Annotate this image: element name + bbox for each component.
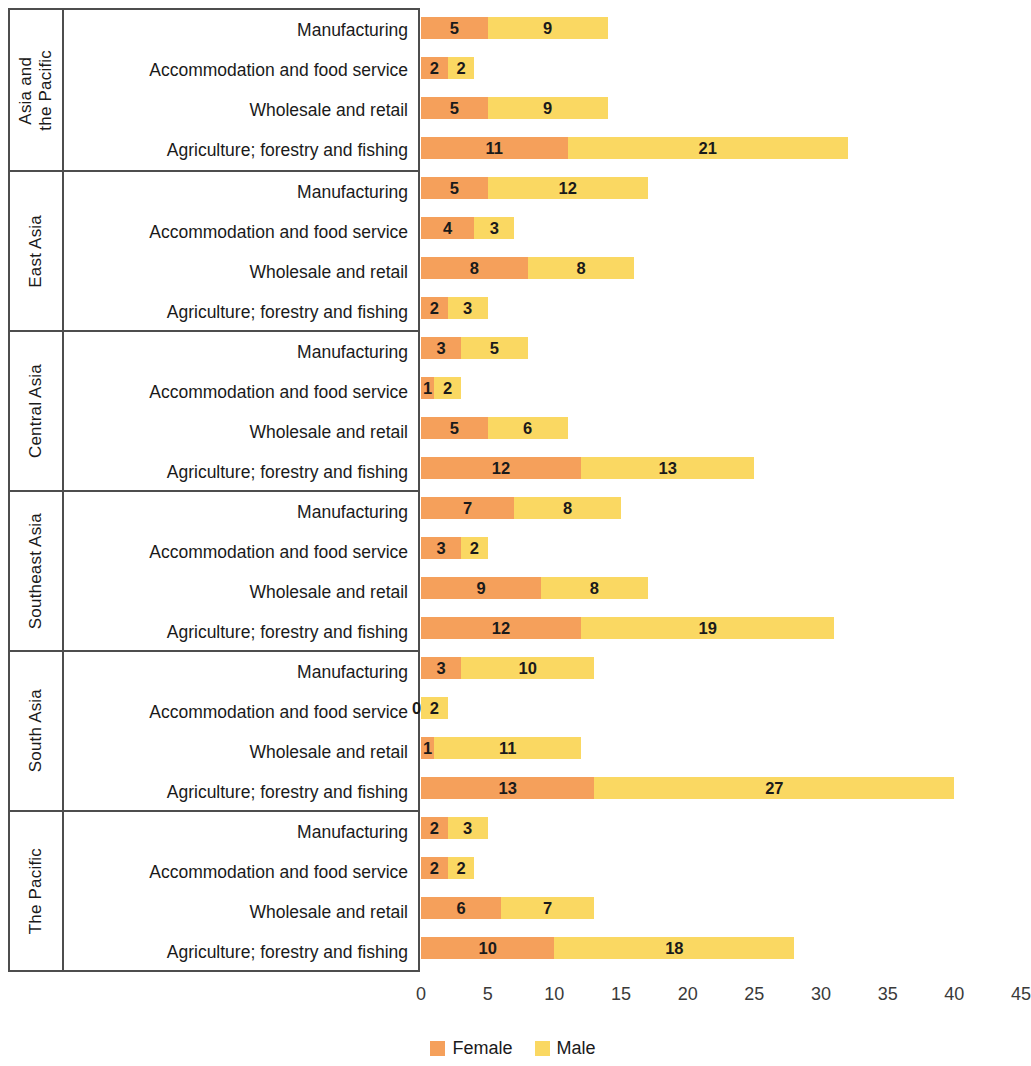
- legend-item-female[interactable]: Female: [430, 1038, 512, 1059]
- region-name: South Asia: [26, 689, 46, 772]
- legend-swatch-icon: [430, 1041, 445, 1056]
- bar-segment-female[interactable]: 2: [421, 297, 448, 319]
- bar-segment-female[interactable]: 3: [421, 657, 461, 679]
- bar-segment-male[interactable]: 2: [448, 857, 475, 879]
- stacked-bar[interactable]: 12: [421, 377, 1021, 399]
- bar-segment-male[interactable]: 7: [501, 897, 594, 919]
- stacked-bar[interactable]: 1121: [421, 137, 1021, 159]
- bar-segment-male[interactable]: 6: [488, 417, 568, 439]
- stacked-bar[interactable]: 1219: [421, 617, 1021, 639]
- stacked-bar[interactable]: 512: [421, 177, 1021, 199]
- x-axis-tick-label: 5: [483, 984, 493, 1005]
- region-group: Southeast AsiaManufacturingAccommodation…: [10, 490, 418, 650]
- stacked-bar[interactable]: 1018: [421, 937, 1021, 959]
- x-axis: 051015202530354045: [421, 984, 1021, 1010]
- bar-segment-male[interactable]: 8: [514, 497, 621, 519]
- stacked-bar[interactable]: 88: [421, 257, 1021, 279]
- bar-value-label-male: 3: [490, 219, 499, 238]
- stacked-bar[interactable]: 02: [421, 697, 1021, 719]
- bar-row: 22: [421, 48, 1021, 88]
- stacked-bar[interactable]: 111: [421, 737, 1021, 759]
- stacked-bar[interactable]: 35: [421, 337, 1021, 359]
- bar-segment-male[interactable]: 3: [448, 817, 488, 839]
- bar-value-label-female: 8: [470, 259, 479, 278]
- bar-segment-male[interactable]: 18: [554, 937, 794, 959]
- plot-group: 512438823: [421, 168, 1021, 328]
- bar-segment-male[interactable]: 2: [461, 537, 488, 559]
- bar-segment-female[interactable]: 5: [421, 17, 488, 39]
- region-label-cell: Southeast Asia: [10, 492, 64, 650]
- stacked-bar[interactable]: 23: [421, 817, 1021, 839]
- bar-segment-female[interactable]: 5: [421, 97, 488, 119]
- bar-segment-female[interactable]: 2: [421, 817, 448, 839]
- bar-segment-male[interactable]: 5: [461, 337, 528, 359]
- bar-segment-male[interactable]: 8: [541, 577, 648, 599]
- bar-segment-male[interactable]: 9: [488, 17, 608, 39]
- bar-segment-female[interactable]: 2: [421, 857, 448, 879]
- bar-segment-male[interactable]: 12: [488, 177, 648, 199]
- region-group: Central AsiaManufacturingAccommodation a…: [10, 330, 418, 490]
- stacked-bar[interactable]: 43: [421, 217, 1021, 239]
- stacked-bar[interactable]: 67: [421, 897, 1021, 919]
- sector-label: Agriculture; forestry and fishing: [64, 130, 408, 170]
- stacked-bar[interactable]: 56: [421, 417, 1021, 439]
- bar-segment-male[interactable]: 3: [448, 297, 488, 319]
- bar-segment-male[interactable]: 13: [581, 457, 754, 479]
- bar-segment-male[interactable]: 10: [461, 657, 594, 679]
- bar-row: 12: [421, 368, 1021, 408]
- bar-segment-female[interactable]: 3: [421, 337, 461, 359]
- stacked-bar[interactable]: 59: [421, 17, 1021, 39]
- bar-segment-male[interactable]: 2: [434, 377, 461, 399]
- sector-label: Agriculture; forestry and fishing: [64, 452, 408, 492]
- legend-item-male[interactable]: Male: [535, 1038, 596, 1059]
- bar-segment-female[interactable]: 5: [421, 417, 488, 439]
- bar-segment-male[interactable]: 2: [421, 697, 448, 719]
- sector-label: Wholesale and retail: [64, 732, 408, 772]
- bar-segment-male[interactable]: 21: [568, 137, 848, 159]
- bar-segment-male[interactable]: 2: [448, 57, 475, 79]
- stacked-bar[interactable]: 23: [421, 297, 1021, 319]
- stacked-bar[interactable]: 1327: [421, 777, 1021, 799]
- bar-row: 78: [421, 488, 1021, 528]
- region-label-cell: Asia and the Pacific: [10, 10, 64, 170]
- bar-segment-male[interactable]: 19: [581, 617, 834, 639]
- stacked-bar[interactable]: 59: [421, 97, 1021, 119]
- bar-segment-female[interactable]: 7: [421, 497, 514, 519]
- bar-segment-female[interactable]: 5: [421, 177, 488, 199]
- bar-segment-female[interactable]: 11: [421, 137, 568, 159]
- stacked-bar[interactable]: 22: [421, 857, 1021, 879]
- bar-segment-female[interactable]: 6: [421, 897, 501, 919]
- bar-segment-female[interactable]: 1: [421, 737, 434, 759]
- bar-segment-female[interactable]: 2: [421, 57, 448, 79]
- stacked-bar[interactable]: 22: [421, 57, 1021, 79]
- bar-segment-female[interactable]: 9: [421, 577, 541, 599]
- bar-value-label-male: 2: [430, 699, 439, 718]
- stacked-bar[interactable]: 1213: [421, 457, 1021, 479]
- bar-value-label-female: 5: [450, 419, 459, 438]
- bar-value-label-female: 12: [492, 619, 510, 638]
- x-axis-tick-label: 0: [416, 984, 426, 1005]
- bar-value-label-male: 8: [576, 259, 585, 278]
- bar-segment-female[interactable]: 3: [421, 537, 461, 559]
- sector-label-list: ManufacturingAccommodation and food serv…: [64, 332, 418, 490]
- stacked-bar[interactable]: 98: [421, 577, 1021, 599]
- bar-value-label-female: 10: [478, 939, 496, 958]
- stacked-bar[interactable]: 310: [421, 657, 1021, 679]
- bar-segment-female[interactable]: 12: [421, 617, 581, 639]
- bar-row: 111: [421, 728, 1021, 768]
- bar-segment-male[interactable]: 9: [488, 97, 608, 119]
- bar-segment-female[interactable]: 10: [421, 937, 554, 959]
- bar-segment-female[interactable]: 4: [421, 217, 474, 239]
- bar-segment-female[interactable]: 1: [421, 377, 434, 399]
- bar-segment-male[interactable]: 11: [434, 737, 581, 759]
- bar-segment-male[interactable]: 8: [528, 257, 635, 279]
- bar-value-label-female: 1: [423, 379, 432, 398]
- bar-segment-female[interactable]: 12: [421, 457, 581, 479]
- bar-segment-male[interactable]: 3: [474, 217, 514, 239]
- stacked-bar[interactable]: 78: [421, 497, 1021, 519]
- bar-segment-female[interactable]: 13: [421, 777, 594, 799]
- bar-segment-male[interactable]: 27: [594, 777, 954, 799]
- stacked-bar[interactable]: 32: [421, 537, 1021, 559]
- bar-value-label-male: 2: [456, 59, 465, 78]
- bar-segment-female[interactable]: 8: [421, 257, 528, 279]
